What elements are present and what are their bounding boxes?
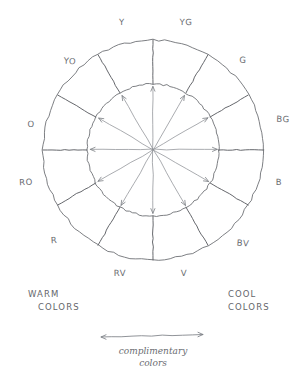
hue-label-o: O xyxy=(27,119,34,129)
hue-label-yg: YG xyxy=(179,17,192,27)
warm-colors-label: WARM COLORS xyxy=(28,288,80,314)
warm-colors-line1: WARM xyxy=(28,289,59,299)
hue-label-rv: RV xyxy=(114,268,127,278)
complimentary-arrow-pairs xyxy=(90,86,217,213)
cool-colors-line1: COOL xyxy=(228,289,256,299)
complimentary-line1: complimentary xyxy=(119,346,188,356)
warm-colors-line2: COLORS xyxy=(28,301,80,314)
hue-label-g: G xyxy=(239,55,247,65)
cool-colors-label: COOL COLORS xyxy=(228,288,270,314)
hue-label-bv: BV xyxy=(236,238,249,249)
color-wheel-diagram: YYGGBGBBVVRVRROOYO WARM COLORS COOL COLO… xyxy=(0,0,307,384)
cool-colors-line2: COLORS xyxy=(228,301,270,314)
complimentary-axis-arrow xyxy=(101,332,203,339)
wheel-drawing xyxy=(0,0,307,384)
hue-label-v: V xyxy=(181,268,187,278)
hue-label-ro: RO xyxy=(19,177,33,187)
hue-label-r: R xyxy=(50,235,57,245)
hue-label-bg: BG xyxy=(276,114,290,125)
complimentary-line2: colors xyxy=(139,358,167,368)
hue-label-b: B xyxy=(276,177,282,187)
hue-label-y: Y xyxy=(119,17,125,27)
complimentary-colors-label: complimentary colors xyxy=(119,345,188,369)
hue-label-yo: YO xyxy=(63,56,76,67)
